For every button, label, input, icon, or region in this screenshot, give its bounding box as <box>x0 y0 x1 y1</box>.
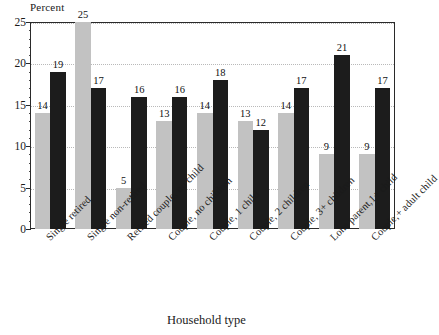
bar-value-label-series-light-3: 13 <box>159 108 170 119</box>
bar-series-dark-0 <box>50 72 66 229</box>
bar-value-label-series-dark-3: 16 <box>174 84 185 95</box>
y-axis-title: Percent <box>30 1 64 13</box>
bar-value-label-series-light-6: 14 <box>281 100 292 111</box>
bar-value-label-series-dark-6: 17 <box>296 75 307 86</box>
bar-value-label-series-dark-0: 19 <box>53 59 64 70</box>
bar-value-label-series-dark-4: 18 <box>215 67 226 78</box>
bar-series-dark-8 <box>375 88 391 229</box>
bar-value-label-series-light-4: 14 <box>200 100 211 111</box>
bar-value-label-series-light-2: 5 <box>121 175 126 186</box>
bar-value-label-series-light-8: 9 <box>364 141 369 152</box>
bar-series-dark-6 <box>294 88 310 229</box>
bar-value-label-series-dark-8: 17 <box>377 75 388 86</box>
bar-series-dark-1 <box>91 88 107 229</box>
bar-value-label-series-dark-7: 21 <box>337 42 348 53</box>
bar-value-label-series-dark-5: 12 <box>256 117 267 128</box>
bar-series-dark-3 <box>172 97 188 229</box>
bar-series-dark-7 <box>334 55 350 229</box>
bar-value-label-series-light-7: 9 <box>324 141 329 152</box>
bar-series-dark-4 <box>213 80 229 229</box>
bar-value-label-series-light-1: 25 <box>78 9 89 20</box>
x-axis-tick-labels: Single retiredSingle non-retiredRetired … <box>0 229 413 309</box>
bar-series-dark-2 <box>131 97 147 229</box>
bar-value-label-series-light-5: 13 <box>240 108 251 119</box>
bar-value-label-series-light-0: 14 <box>37 100 48 111</box>
y-axis-ticks <box>0 22 34 229</box>
x-axis-title: Household type <box>0 313 413 328</box>
bar-value-label-series-dark-2: 16 <box>134 84 145 95</box>
bar-value-label-series-dark-1: 17 <box>93 75 104 86</box>
bar-series-light-0 <box>35 113 51 229</box>
